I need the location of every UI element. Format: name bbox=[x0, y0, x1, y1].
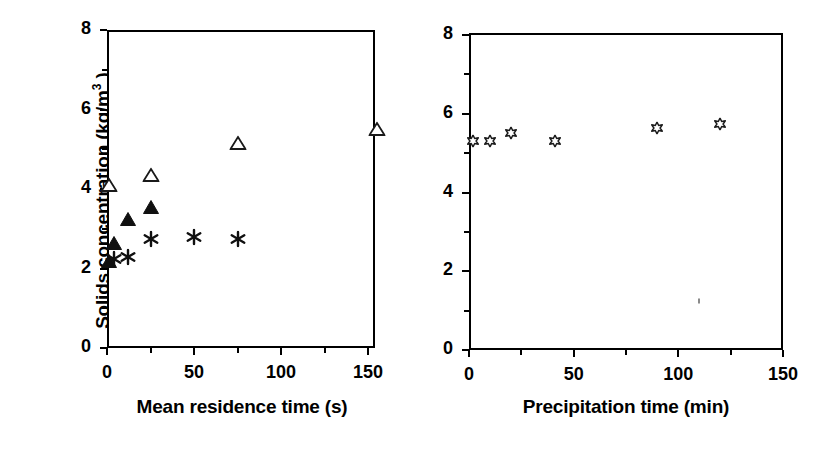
data-point-open-star bbox=[467, 135, 480, 148]
x-tick-label: 100 bbox=[653, 364, 703, 385]
y-tick-label: 2 bbox=[423, 259, 453, 280]
data-point-open-star bbox=[483, 135, 496, 148]
y-tick-major bbox=[462, 34, 469, 36]
right-x-axis-title: Precipitation time (min) bbox=[461, 396, 791, 418]
y-tick-label: 0 bbox=[423, 338, 453, 359]
x-tick-major bbox=[782, 350, 784, 357]
data-point-open-star bbox=[714, 117, 727, 130]
x-tick-major bbox=[573, 350, 575, 357]
x-tick-label: 50 bbox=[549, 364, 599, 385]
scan-speck bbox=[698, 298, 700, 303]
x-tick-label: 0 bbox=[444, 364, 494, 385]
figure-container: Solids concentration (kg/m3 ) 0246805010… bbox=[0, 0, 820, 451]
y-tick-major bbox=[462, 113, 469, 115]
y-tick-minor bbox=[464, 73, 469, 75]
x-tick-minor bbox=[520, 350, 522, 355]
y-tick-minor bbox=[464, 152, 469, 154]
data-point-open-star bbox=[504, 127, 517, 140]
y-tick-minor bbox=[464, 231, 469, 233]
y-tick-major bbox=[462, 270, 469, 272]
y-tick-minor bbox=[464, 310, 469, 312]
x-tick-minor bbox=[730, 350, 732, 355]
y-tick-label: 4 bbox=[423, 181, 453, 202]
x-tick-major bbox=[677, 350, 679, 357]
data-point-open-star bbox=[548, 135, 561, 148]
y-tick-major bbox=[462, 192, 469, 194]
x-tick-minor bbox=[625, 350, 627, 355]
y-tick-label: 6 bbox=[423, 102, 453, 123]
x-tick-label: 150 bbox=[758, 364, 808, 385]
y-tick-label: 8 bbox=[423, 23, 453, 44]
data-point-open-star bbox=[651, 121, 664, 134]
x-tick-major bbox=[468, 350, 470, 357]
right-plot-area bbox=[469, 33, 783, 350]
right-panel: 02468050100150 Precipitation time (min) bbox=[0, 0, 820, 451]
